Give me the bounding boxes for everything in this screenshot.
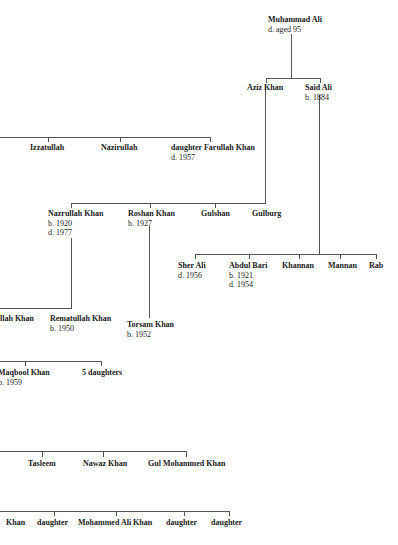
node-name: Izzatullah	[30, 143, 64, 153]
connector-line	[0, 451, 187, 452]
connector-line	[120, 137, 121, 142]
node-five-daughters: 5 daughters	[82, 368, 122, 378]
connector-line	[291, 34, 292, 78]
node-gul-mohammed-khan: Gul Mohammed Khan	[148, 459, 225, 469]
node-said-ali: Said Ali b. 1884	[305, 83, 332, 102]
node-gulburg: Gulburg	[252, 209, 281, 219]
connector-line	[266, 78, 321, 79]
node-ullah-khan: llah Khan	[0, 314, 34, 324]
node-name: daughter	[166, 518, 197, 528]
connector-line	[54, 511, 55, 516]
node-rab: Rab	[369, 261, 383, 271]
connector-line	[71, 203, 72, 208]
node-birth: b. 1959	[0, 378, 50, 388]
node-birth: b. 1927	[128, 219, 175, 229]
connector-line	[150, 203, 151, 208]
node-nazirullah: Nazirullah	[101, 143, 137, 153]
connector-line	[0, 137, 211, 138]
connector-line	[25, 361, 26, 366]
connector-line	[210, 137, 211, 142]
node-birth: b. 1884	[305, 93, 332, 103]
connector-line	[71, 203, 266, 204]
connector-line	[71, 238, 72, 308]
node-name: Mannan	[328, 261, 357, 271]
node-daughter-4: daughter	[211, 518, 242, 528]
node-name: Gulshan	[201, 209, 230, 219]
connector-line	[265, 88, 266, 198]
node-name: Nazrullah Khan	[48, 209, 103, 219]
node-roshan-khan: Roshan Khan b. 1927	[128, 209, 175, 228]
node-birth: b. 1952	[127, 330, 174, 340]
node-name: Nazirullah	[101, 143, 137, 153]
node-name: Abdul Bari	[229, 261, 267, 271]
node-mohammed-ali-khan: Mohammed Ali Khan	[78, 518, 152, 528]
node-torsam-khan: Torsam Khan b. 1952	[127, 320, 174, 339]
connector-line	[101, 361, 102, 366]
node-name: Aziz Khan	[247, 83, 283, 93]
node-name: Said Ali	[305, 83, 332, 93]
node-name: daughter Farullah Khan	[171, 143, 255, 153]
connector-line	[215, 203, 216, 208]
connector-line	[299, 254, 300, 259]
node-birth: b. 1921	[229, 271, 267, 281]
node-death: d. 1977	[48, 228, 103, 238]
node-death: d. 1956	[178, 271, 206, 281]
connector-line	[340, 254, 341, 259]
connector-line	[229, 511, 230, 516]
connector-line	[186, 451, 187, 457]
node-mannan: Mannan	[328, 261, 357, 271]
connector-line	[116, 511, 117, 516]
node-sher-ali: Sher Ali d. 1956	[178, 261, 206, 280]
node-rematullah-khan: Rematullah Khan b. 1950	[50, 314, 111, 333]
node-name: Khan	[6, 518, 25, 528]
node-birth: b. 1920	[48, 219, 103, 229]
node-name: 5 daughters	[82, 368, 122, 378]
node-name: daughter	[37, 518, 68, 528]
connector-line	[149, 226, 150, 318]
node-muhammad-ali: Muhammad Ali d. aged 95	[268, 15, 322, 34]
node-name: Muhammad Ali	[268, 15, 322, 25]
node-name: Rab	[369, 261, 383, 271]
connector-line	[195, 254, 196, 259]
connector-line	[319, 95, 320, 254]
node-maqbool-khan: Maqbool Khan b. 1959	[0, 368, 50, 387]
node-death: d. aged 95	[268, 25, 322, 35]
node-name: Rematullah Khan	[50, 314, 111, 324]
node-name: Torsam Khan	[127, 320, 174, 330]
node-name: Tasleem	[28, 459, 56, 469]
node-tasleem: Tasleem	[28, 459, 56, 469]
node-abdul-bari: Abdul Bari b. 1921 d. 1954	[229, 261, 267, 290]
connector-line	[195, 254, 377, 255]
connector-line	[48, 137, 49, 142]
connector-line	[0, 361, 102, 362]
node-izzatullah: Izzatullah	[30, 143, 64, 153]
node-name: Sher Ali	[178, 261, 206, 271]
node-nazrullah-khan: Nazrullah Khan b. 1920 d. 1977	[48, 209, 103, 238]
node-khannan: Khannan	[282, 261, 314, 271]
connector-line	[249, 254, 250, 259]
node-daughter-3: daughter	[166, 518, 197, 528]
node-name: Roshan Khan	[128, 209, 175, 219]
connector-line	[184, 511, 185, 516]
node-daughter-farullah: daughter Farullah Khan d. 1957	[171, 143, 255, 162]
node-nawaz-khan: Nawaz Khan	[83, 459, 127, 469]
node-name: Gul Mohammed Khan	[148, 459, 225, 469]
node-name: Gulburg	[252, 209, 281, 219]
node-aziz-khan: Aziz Khan	[247, 83, 283, 93]
node-name: daughter	[211, 518, 242, 528]
connector-line	[42, 451, 43, 457]
node-death: d. 1954	[229, 280, 267, 290]
node-name: llah Khan	[0, 314, 34, 324]
node-name: Mohammed Ali Khan	[78, 518, 152, 528]
connector-line	[103, 451, 104, 457]
node-death: d. 1957	[171, 153, 255, 163]
node-daughter-2: daughter	[37, 518, 68, 528]
connector-line	[0, 308, 72, 309]
connector-line	[376, 254, 377, 259]
connector-line	[265, 196, 266, 204]
node-name: Maqbool Khan	[0, 368, 50, 378]
node-gulshan: Gulshan	[201, 209, 230, 219]
node-name: Nawaz Khan	[83, 459, 127, 469]
node-birth: b. 1950	[50, 324, 111, 334]
connector-line	[0, 511, 230, 512]
